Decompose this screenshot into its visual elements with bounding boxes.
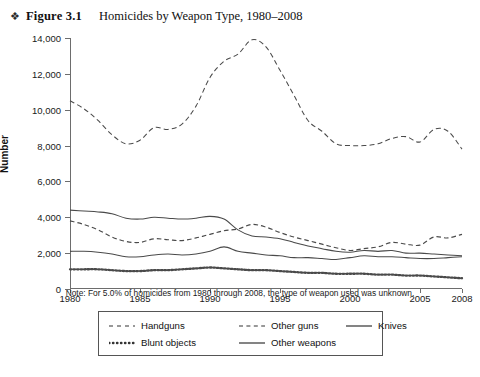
legend-item-other-weapons: Other weapons	[229, 337, 336, 348]
figure-number-label: Figure 3.1	[26, 9, 82, 24]
legend-label: Blunt objects	[141, 337, 196, 348]
y-axis-title: Number	[0, 135, 10, 173]
chart-legend: HandgunsOther gunsKnivesBlunt objectsOth…	[98, 311, 383, 356]
y-tick-label: 14,000	[32, 33, 61, 44]
y-tick-label: 4,000	[37, 212, 61, 223]
figure-header: ❖ Figure 3.1 Homicides by Weapon Type, 1…	[0, 6, 480, 26]
legend-item-other-guns: Other guns	[229, 320, 318, 331]
series-line	[70, 221, 462, 251]
legend-label: Other weapons	[271, 337, 336, 348]
y-tick-label: 12,000	[32, 68, 61, 79]
floret-bullet-icon: ❖	[0, 11, 26, 22]
plot-area: 02,0004,0006,0008,00010,00012,00014,000 …	[70, 38, 462, 289]
figure-title: Homicides by Weapon Type, 1980–2008	[99, 9, 303, 24]
legend-item-blunt-objects: Blunt objects	[99, 337, 196, 348]
y-tick-label: 2,000	[37, 248, 61, 259]
legend-item-handguns: Handguns	[99, 320, 185, 331]
legend-row: HandgunsOther gunsKnives	[99, 317, 382, 334]
legend-line-swatch	[239, 338, 265, 348]
chart-note: Note: For 5.0% of homicides from 1980 th…	[0, 288, 480, 298]
series-line	[70, 210, 462, 256]
legend-line-swatch	[109, 321, 135, 331]
legend-item-knives: Knives	[336, 320, 407, 331]
legend-line-swatch	[109, 338, 135, 348]
legend-row: Blunt objectsOther weapons	[99, 334, 382, 351]
series-line	[70, 267, 462, 278]
y-tick-label: 6,000	[37, 176, 61, 187]
legend-label: Knives	[378, 320, 407, 331]
series-lines	[70, 38, 462, 289]
y-tick-label: 8,000	[37, 140, 61, 151]
y-tick-label: 10,000	[32, 104, 61, 115]
legend-label: Handguns	[141, 320, 185, 331]
legend-line-swatch	[239, 321, 265, 331]
series-line	[70, 40, 462, 150]
legend-line-swatch	[346, 321, 372, 331]
chart-container: Number 02,0004,0006,0008,00010,00012,000…	[0, 26, 480, 276]
legend-label: Other guns	[271, 320, 318, 331]
